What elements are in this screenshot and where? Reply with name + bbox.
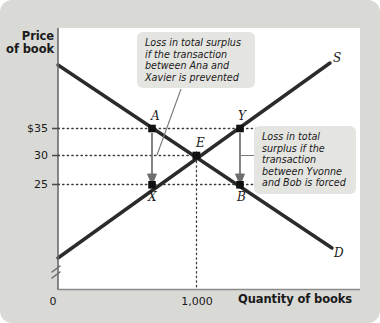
point-label-a: A [151,109,160,123]
callout-yvonne-bob: Loss in total surplus if the transaction… [254,126,356,194]
supply-demand-figure: Price of book Quantity of books $35 30 2… [0,0,380,323]
arrow-yvonne-bob [236,133,245,185]
y-axis-title-line2: of book [6,43,54,56]
point-label-e: E [196,136,205,150]
x-tick-label-1000: 1,000 [173,295,221,308]
point-label-y: Y [238,109,246,123]
demand-curve-label: D [334,246,344,260]
y-tick-label-30: 30 [4,149,48,162]
point-marker-y [236,125,244,133]
y-tick-label-35: $35 [4,122,48,135]
point-label-x: X [148,190,157,204]
y-axis-title: Price of book [6,30,54,56]
arrow-ana-xavier [148,133,157,185]
point-marker-x [148,181,156,189]
point-label-b: B [237,190,246,204]
point-marker-a [148,125,156,133]
x-tick-label-0: 0 [40,295,66,308]
x-axis-title: Quantity of books [238,293,352,306]
supply-curve-label: S [333,51,341,65]
point-marker-b [236,181,244,189]
callout-ana-xavier: Loss in total surplus if the transaction… [137,32,255,88]
y-tick-label-25: 25 [4,178,48,191]
point-marker-e [193,152,201,160]
